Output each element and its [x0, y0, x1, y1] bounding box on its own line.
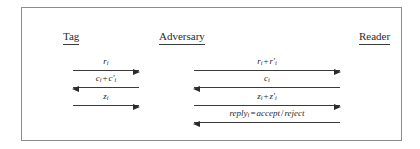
message-arrow-adversary-to-reader-z: zi+z′i [194, 89, 340, 107]
message-arrow-tag-to-adversary-z: zi [73, 89, 139, 107]
message-arrow-reader-to-adversary-c: ci [194, 71, 340, 89]
message-arrow-reader-to-adversary-reply: replyi=accept/reject [194, 106, 340, 124]
arrow-shaft [73, 87, 139, 88]
message-label-z-i: zi [73, 91, 139, 103]
arrowhead-right-icon [133, 104, 140, 110]
message-label-r-i-plus-r-prime-i: ri+r′i [194, 56, 340, 68]
protocol-sequence-figure: Tag Adversary Reader ri ci+c′i zi ri+r′i [0, 0, 420, 149]
message-label-r-i: ri [73, 56, 139, 68]
arrow-shaft [194, 87, 340, 88]
message-arrow-adversary-to-reader-r: ri+r′i [194, 54, 340, 72]
message-label-z-i-plus-z-prime-i: zi+z′i [194, 91, 340, 103]
message-label-reply-i: replyi=accept/reject [194, 108, 340, 120]
party-header-reader-label: Reader [359, 30, 390, 42]
party-header-adversary-label: Adversary [159, 30, 205, 42]
message-arrow-tag-to-adversary-r: ri [73, 54, 139, 72]
party-header-adversary: Adversary [159, 30, 205, 45]
figure-frame: Tag Adversary Reader ri ci+c′i zi ri+r′i [21, 7, 402, 141]
message-label-c-i: ci [194, 73, 340, 85]
message-label-c-i-plus-c-prime-i: ci+c′i [73, 73, 139, 85]
arrow-shaft [194, 122, 340, 123]
message-arrow-adversary-to-tag-c: ci+c′i [73, 71, 139, 89]
arrowhead-left-icon [193, 121, 200, 127]
party-header-reader: Reader [359, 30, 390, 45]
party-header-tag-label: Tag [63, 30, 79, 42]
arrow-shaft [73, 105, 139, 106]
party-header-tag: Tag [63, 30, 79, 45]
